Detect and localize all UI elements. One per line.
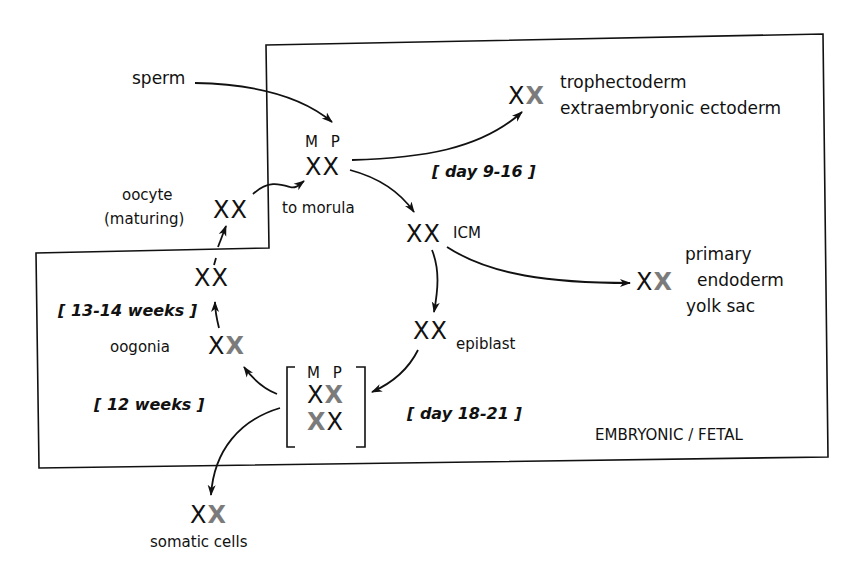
oogonia-chromosomes: XX (208, 334, 245, 358)
mosaic-row-1: XX (307, 383, 344, 407)
oocyte-label-2: (maturing) (104, 212, 184, 227)
oocyte-label-1: oocyte (122, 188, 173, 203)
reactivated-chromosomes: XX (194, 266, 229, 290)
inactive-x-icon: X (207, 503, 227, 527)
sperm-label: sperm (132, 70, 185, 87)
timing-12-weeks: [ 12 weeks ] (94, 397, 204, 413)
arrow-mosaic-to-somatic (211, 408, 280, 495)
somatic-label: somatic cells (150, 535, 248, 550)
icm-label: ICM (453, 226, 481, 241)
timing-13-14-weeks: [ 13-14 weeks ] (58, 303, 197, 319)
active-x: X (327, 408, 344, 436)
arrow-oogonia-to-reactivated (215, 302, 219, 328)
arrow-oocyte-to-zygote (253, 181, 304, 194)
zygote-caption: to morula (282, 201, 355, 216)
mosaic-bracket-right (356, 367, 365, 447)
mosaic-row-2: XX (307, 410, 344, 434)
arrow-sperm-to-zygote (195, 83, 332, 122)
arrow-zygote-to-trophectoderm (352, 112, 522, 160)
active-x: X (508, 82, 525, 110)
endoderm-chromosomes: XX (636, 270, 673, 294)
zygote-chromosomes: XX (305, 155, 340, 179)
active-x: X (636, 268, 653, 296)
oocyte-chromosomes: XX (213, 198, 248, 222)
arrow-icm-to-endoderm (447, 247, 630, 283)
trophectoderm-chromosomes: XX (508, 84, 545, 108)
trophectoderm-label-2: extraembryonic ectoderm (560, 100, 781, 117)
arrow-mosaic-to-oogonia (244, 367, 277, 394)
mosaic-bracket-left (287, 367, 295, 447)
epiblast-label: epiblast (456, 337, 516, 352)
trophectoderm-label-1: trophectoderm (560, 74, 687, 91)
active-x: X (307, 381, 324, 409)
somatic-chromosomes: XX (190, 503, 227, 527)
arrow-epiblast-to-mosaic (372, 350, 418, 392)
endoderm-label-3: yolk sac (686, 298, 755, 315)
icm-chromosomes: XX (406, 222, 441, 246)
inactive-x-icon: X (307, 410, 327, 434)
active-x: X (190, 501, 207, 529)
arrow-icm-to-epiblast (432, 250, 438, 312)
mosaic-parent-label: M P (307, 366, 346, 381)
inactive-x-icon: X (324, 383, 344, 407)
active-x: X (208, 332, 225, 360)
epiblast-chromosomes: XX (413, 319, 448, 343)
arrow-zygote-to-icm (350, 170, 414, 212)
endoderm-label-1: primary (685, 246, 752, 263)
timing-day-9-16: [ day 9-16 ] (432, 164, 536, 180)
inactive-x-icon: X (525, 84, 545, 108)
timing-day-18-21: [ day 18-21 ] (407, 406, 522, 422)
inactive-x-icon: X (225, 334, 245, 358)
zygote-parent-label: M P (305, 135, 344, 150)
inactive-x-icon: X (653, 270, 673, 294)
region-label: EMBRYONIC / FETAL (595, 428, 743, 443)
endoderm-label-2: endoderm (697, 272, 784, 289)
oogonia-label: oogonia (110, 340, 170, 355)
